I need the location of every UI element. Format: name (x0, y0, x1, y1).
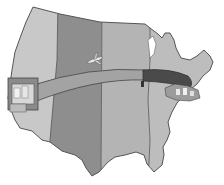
band-support (141, 81, 144, 87)
west-coast-city-icon (8, 78, 38, 112)
zone-central (101, 0, 150, 185)
map-svg (0, 0, 224, 185)
us-map-illustration: Map of the continental United States wit… (0, 0, 224, 185)
